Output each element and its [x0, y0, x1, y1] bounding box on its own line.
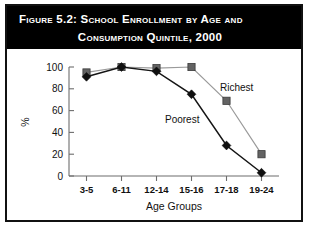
y-tick-label: 0 — [57, 171, 63, 182]
data-point-marker — [258, 151, 265, 158]
chart-plot-area: 020406080100 3-56-1112-1415-1617-1819-24… — [7, 49, 301, 220]
series-label-richest: Richest — [220, 82, 254, 93]
data-point-marker — [223, 97, 230, 104]
y-tick-label: 60 — [52, 105, 64, 116]
x-tick-label: 19-24 — [249, 184, 274, 195]
data-point-marker — [188, 63, 195, 70]
series-richest — [83, 63, 265, 157]
y-tick-label: 100 — [46, 62, 63, 73]
figure-title-line-2: Consumption Quintile, 2000 — [13, 28, 295, 46]
figure-frame: Figure 5.2: School Enrollment by Age and… — [5, 4, 303, 222]
x-tick-label: 15-16 — [179, 184, 203, 195]
figure-title-bar: Figure 5.2: School Enrollment by Age and… — [7, 6, 301, 49]
x-tick-label: 6-11 — [112, 184, 131, 195]
x-tick-label: 12-14 — [144, 184, 169, 195]
line-chart: 020406080100 3-56-1112-1415-1617-1819-24… — [7, 49, 301, 220]
figure-title-line-1: Figure 5.2: School Enrollment by Age and — [13, 10, 295, 28]
x-axis-ticks: 3-56-1112-1415-1617-1819-24 — [80, 176, 275, 195]
series-label-poorest: Poorest — [165, 114, 200, 125]
y-axis-ticks: 020406080100 — [46, 62, 74, 182]
data-point-marker — [187, 90, 196, 99]
x-axis-title: Age Groups — [146, 200, 202, 212]
x-tick-label: 17-18 — [214, 184, 238, 195]
y-tick-label: 80 — [52, 83, 64, 94]
y-tick-label: 20 — [52, 149, 64, 160]
series-line — [87, 67, 262, 154]
y-tick-label: 40 — [52, 127, 64, 138]
x-tick-label: 3-5 — [80, 184, 94, 195]
y-axis-title: % — [19, 117, 31, 126]
